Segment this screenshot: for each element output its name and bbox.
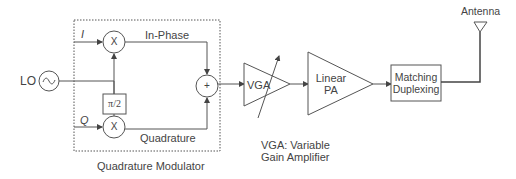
phase-shift-label: π/2: [103, 98, 126, 110]
quadrature-label: Quadrature: [140, 132, 196, 144]
vga-note-line1: VGA: Variable: [261, 139, 330, 151]
matching-label-line1: Matching: [391, 71, 441, 83]
matching-to-antenna-line: [441, 32, 480, 82]
quadrature-path: [125, 98, 207, 129]
vga-note-line2: Gain Amplifier: [261, 151, 329, 163]
matching-label-line2: Duplexing: [391, 83, 441, 95]
antenna-label: Antenna: [461, 5, 500, 17]
pa-label-line2: PA: [310, 84, 352, 96]
pa-label-line1: Linear: [310, 72, 352, 84]
modulator-caption: Quadrature Modulator: [97, 160, 205, 172]
vga-label: VGA: [247, 79, 270, 91]
i-input-label: I: [81, 28, 84, 40]
antenna-icon: [474, 22, 487, 32]
sum-symbol: +: [199, 80, 215, 92]
i-mixer-symbol: X: [106, 36, 122, 48]
q-mixer-symbol: X: [106, 121, 122, 133]
q-input-label: Q: [80, 114, 89, 126]
lo-label: LO: [20, 75, 36, 87]
in-phase-path: [125, 42, 207, 74]
in-phase-label: In-Phase: [145, 29, 189, 41]
